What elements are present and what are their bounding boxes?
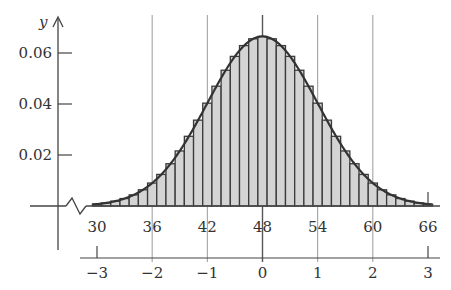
y-ticks: 0.020.040.06 — [19, 44, 72, 164]
x-tick-label: 36 — [143, 218, 162, 236]
z-tick-label: 1 — [313, 264, 323, 282]
y-axis-label: y — [38, 13, 48, 31]
x-tick-label: 60 — [363, 218, 382, 236]
histogram-bar — [230, 56, 239, 206]
histogram-bar — [249, 39, 258, 206]
z-ticks: −3−2−10123 — [86, 246, 433, 282]
histogram-bar — [322, 120, 331, 206]
histogram-bar — [175, 151, 184, 206]
z-tick-label: −3 — [86, 264, 108, 282]
normal-histogram-chart: y 0.020.040.06 30364248546066 −3−2−10123 — [0, 0, 451, 290]
z-tick-label: 0 — [258, 264, 268, 282]
y-tick-label: 0.02 — [19, 146, 52, 164]
histogram-bar — [240, 46, 249, 206]
x-tick-label: 42 — [198, 218, 217, 236]
histogram-bar — [350, 164, 359, 206]
histogram-bar — [313, 103, 322, 206]
x-tick-label: 54 — [308, 218, 327, 236]
histogram-bar — [276, 46, 285, 206]
histogram-bar — [184, 136, 193, 206]
z-tick-label: −1 — [196, 264, 218, 282]
histogram-bar — [258, 36, 267, 206]
z-tick-label: 2 — [368, 264, 378, 282]
histogram-bar — [331, 136, 340, 206]
histogram-bar — [285, 56, 294, 206]
histogram-bar — [304, 86, 313, 206]
x-tick-label: 48 — [253, 218, 272, 236]
y-tick-label: 0.06 — [19, 44, 52, 62]
histogram-bar — [212, 86, 221, 206]
histogram-bar — [203, 103, 212, 206]
histogram-bars — [92, 36, 432, 206]
histogram-bar — [194, 120, 203, 206]
histogram-bar — [221, 70, 230, 206]
z-tick-label: 3 — [423, 264, 433, 282]
histogram-bar — [295, 70, 304, 206]
histogram-bar — [341, 151, 350, 206]
x-tick-label: 66 — [418, 218, 437, 236]
axis-break-icon — [66, 198, 86, 214]
x-tick-label: 30 — [87, 218, 106, 236]
z-tick-label: −2 — [141, 264, 163, 282]
histogram-bar — [166, 164, 175, 206]
y-tick-label: 0.04 — [19, 95, 52, 113]
histogram-bar — [267, 39, 276, 206]
